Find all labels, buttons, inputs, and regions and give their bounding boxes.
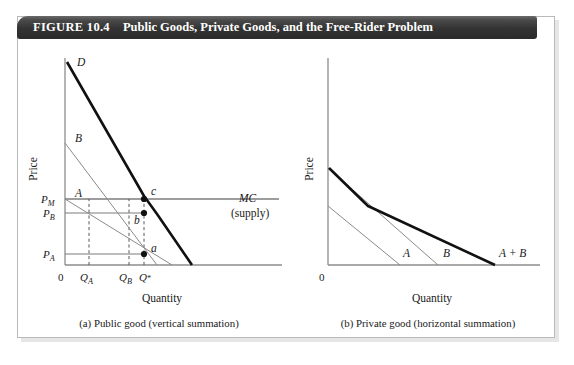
- x-tick-qa: QA: [80, 271, 94, 286]
- curve-demand-a: [65, 199, 172, 265]
- y-tick-pa: PA: [42, 248, 56, 263]
- chart-public-good: D B A c b a MC (supply) PM PB PA 0 QA QB…: [17, 44, 307, 334]
- figure-number: FIGURE 10.4: [33, 20, 110, 35]
- figure-title: Public Goods, Private Goods, and the Fre…: [123, 20, 433, 35]
- y-axis-title: Price: [27, 157, 39, 181]
- curve-label-a: A: [402, 247, 411, 259]
- mc-sublabel: (supply): [231, 207, 270, 220]
- curve-label-b: B: [443, 247, 450, 259]
- y-axis-title: Price: [303, 157, 315, 181]
- y-tick-pb: PB: [42, 207, 55, 222]
- curve-label-d: D: [76, 56, 86, 68]
- x-tick-qb: QB: [119, 271, 132, 286]
- curve-label-b: B: [75, 132, 82, 144]
- curve-label-a-plus-b: A + B: [498, 247, 526, 259]
- panel-public-good: D B A c b a MC (supply) PM PB PA 0 QA QB…: [17, 44, 307, 334]
- curve-demand-a-plus-b: [329, 168, 495, 265]
- point-marker-c: [141, 196, 147, 202]
- figure-title-banner: FIGURE 10.4 Public Goods, Private Goods,…: [17, 16, 537, 39]
- x-tick-origin: 0: [319, 271, 325, 283]
- x-axis-title: Quantity: [142, 292, 182, 305]
- point-marker-b: [141, 210, 147, 216]
- point-marker-a: [141, 251, 147, 257]
- mc-label: MC: [238, 192, 257, 204]
- panel-b-caption: (b) Private good (horizontal summation): [341, 317, 516, 330]
- x-tick-origin: 0: [58, 271, 64, 283]
- point-label-a: a: [151, 242, 157, 254]
- x-tick-qstar: Q*: [139, 271, 151, 283]
- curve-label-a: A: [74, 187, 83, 199]
- chart-private-good: A B A + B 0 Price Quantity (b) Private g…: [300, 44, 555, 334]
- panel-a-caption: (a) Public good (vertical summation): [79, 317, 239, 330]
- y-tick-pm: PM: [40, 193, 56, 208]
- panel-private-good: A B A + B 0 Price Quantity (b) Private g…: [300, 44, 555, 334]
- figure-root: FIGURE 10.4 Public Goods, Private Goods,…: [0, 0, 574, 365]
- point-label-c: c: [151, 185, 156, 197]
- x-axis-title: Quantity: [412, 292, 452, 305]
- point-label-b: b: [134, 214, 140, 226]
